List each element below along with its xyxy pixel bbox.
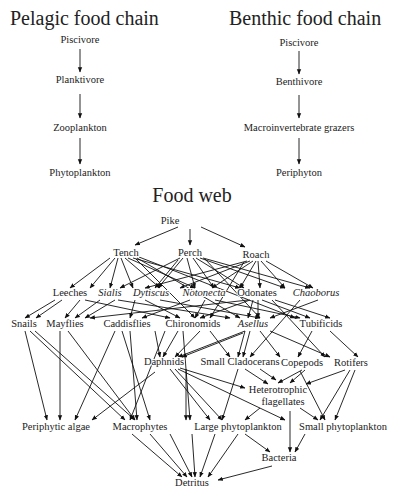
foodweb-node-detritus: Detritus: [175, 477, 209, 488]
pelagic-node-planktivore: Planktivore: [56, 74, 105, 85]
foodweb-node-periphytic: Periphytic algae: [22, 421, 90, 432]
foodweb-node-pike: Pike: [161, 215, 180, 226]
foodweb-node-leeches: Leeches: [53, 287, 87, 298]
foodweb-node-snails: Snails: [11, 318, 37, 329]
foodweb-node-roach: Roach: [243, 249, 271, 260]
foodweb-node-tubificids: Tubificids: [300, 318, 343, 329]
foodweb-edges: [25, 227, 358, 480]
foodweb-node-perch: Perch: [178, 247, 203, 258]
foodweb-node-tench: Tench: [113, 247, 139, 258]
foodweb-node-smallclad: Small Cladocerans: [200, 356, 279, 367]
foodweb-node-sialis: Sialis: [98, 287, 121, 298]
benthic-node-macroinvertebrate-grazers: Macroinvertebrate grazers: [244, 122, 354, 133]
foodweb-title: Food web: [152, 184, 231, 206]
benthic-node-piscivore: Piscivore: [279, 37, 318, 48]
foodweb-node-asellus: Asellus: [237, 318, 268, 329]
foodweb-node-largephyto: Large phytoplankton: [194, 421, 282, 432]
foodweb-nodes: PikeTenchPerchRoachLeechesSialisDytiscus…: [11, 215, 387, 488]
foodweb-node-notonecta: Notonecta: [181, 287, 225, 298]
foodweb-node-caddisflies: Caddisflies: [103, 318, 150, 329]
foodweb-node-odonates: Odonates: [237, 287, 277, 298]
foodweb-node-rotifers: Rotifers: [334, 357, 368, 368]
foodweb-node-daphnids: Daphnids: [144, 356, 184, 367]
foodweb-node-macrophytes: Macrophytes: [113, 421, 168, 432]
foodweb-node-bacteria: Bacteria: [262, 452, 297, 463]
food-web-figure: Pelagic food chain Piscivore Planktivore…: [0, 0, 402, 498]
foodweb-node-dytiscus: Dytiscus: [132, 287, 169, 298]
foodweb-node-hetero1: Heterotrophic: [249, 384, 308, 395]
pelagic-node-zooplankton: Zooplankton: [53, 122, 107, 133]
pelagic-title: Pelagic food chain: [10, 7, 159, 30]
pelagic-node-piscivore: Piscivore: [60, 34, 99, 45]
foodweb-node-chaoborus: Chaoborus: [293, 287, 340, 298]
pelagic-node-phytoplankton: Phytoplankton: [49, 167, 111, 178]
foodweb-node-copepods: Copepods: [281, 357, 323, 368]
foodweb-node-chironomids: Chironomids: [166, 318, 221, 329]
benthic-node-periphyton: Periphyton: [276, 167, 323, 178]
foodweb-node-mayflies: Mayflies: [46, 318, 83, 329]
foodweb-node-smallphyto: Small phytoplankton: [299, 421, 388, 432]
benthic-title: Benthic food chain: [229, 7, 381, 29]
foodweb-node-hetero2: flagellates: [261, 396, 304, 407]
benthic-node-benthivore: Benthivore: [276, 76, 323, 87]
